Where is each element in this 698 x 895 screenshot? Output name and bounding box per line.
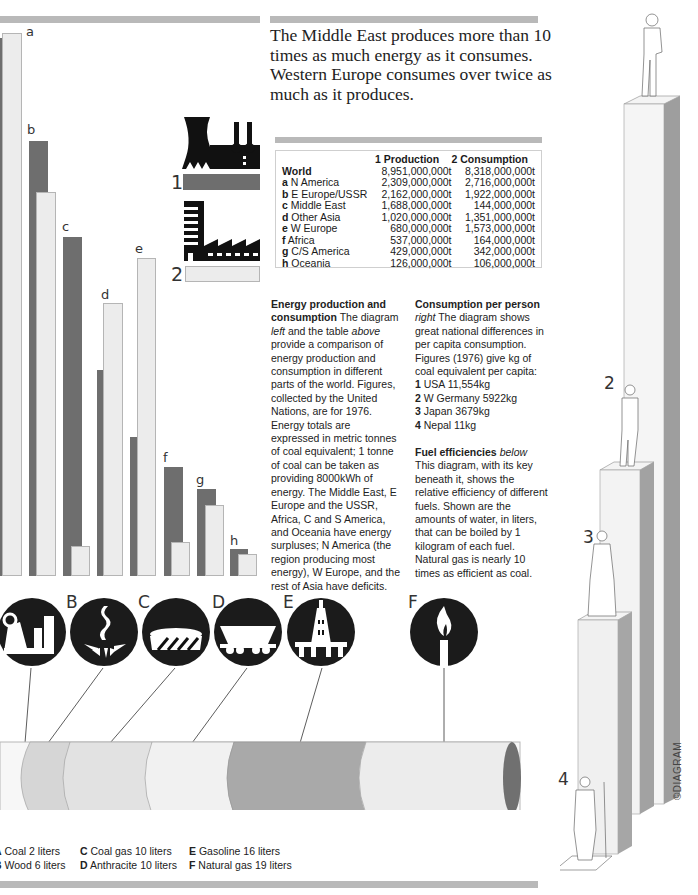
fuel-key-letter: E bbox=[189, 845, 196, 857]
production-text-part: and the table bbox=[285, 325, 352, 337]
legend-swatch-production bbox=[183, 174, 260, 190]
fuel-efficiency-pipe bbox=[0, 660, 530, 810]
table-row: h Oceania 126,000,000t 106,000,000t bbox=[282, 258, 535, 270]
region-key: a bbox=[282, 176, 288, 188]
consumption-value: 106,000,000t bbox=[452, 258, 535, 270]
fuel-key-letter: C bbox=[80, 845, 88, 857]
fuel-key-item: D Anthracite 10 liters bbox=[80, 859, 177, 873]
region-name: Oceania bbox=[291, 257, 330, 269]
consumption-value: 144,000,000t bbox=[452, 200, 535, 212]
fuel-body: This diagram, with its key beneath it, s… bbox=[415, 459, 548, 578]
region-key: d bbox=[282, 211, 288, 223]
fuel-key-name: Anthracite bbox=[90, 859, 137, 871]
gas-holder-icon bbox=[142, 598, 210, 666]
bar-label-b: b bbox=[27, 122, 35, 137]
fuel-key-liters: 19 liters bbox=[255, 859, 292, 871]
fuel-key-item: A Coal 2 liters bbox=[0, 845, 66, 859]
item-text: Japan 3679kg bbox=[421, 405, 490, 417]
per-person-heading: Consumption per person bbox=[415, 298, 540, 310]
top-rule-right bbox=[270, 16, 538, 23]
region-key: g bbox=[282, 245, 288, 257]
table-header-row: 1 Production 2 Consumption bbox=[282, 154, 535, 166]
production-value: 2,309,000,000t bbox=[375, 177, 452, 189]
bar-c-production bbox=[63, 237, 82, 576]
region-name: World bbox=[282, 165, 312, 177]
per-person-right: right bbox=[415, 311, 435, 323]
wood-fire-icon bbox=[70, 598, 138, 666]
table-rule bbox=[275, 137, 542, 143]
region-key: e bbox=[282, 222, 288, 234]
fuel-key-letter: A bbox=[0, 845, 2, 857]
bottom-rule bbox=[0, 881, 538, 888]
fuel-key-liters: 16 liters bbox=[243, 845, 280, 857]
region-name: Middle East bbox=[291, 199, 346, 211]
table-header-production: 1 Production bbox=[375, 154, 452, 166]
bar-label-f: f bbox=[163, 450, 168, 465]
fuel-key-item: F Natural gas 19 liters bbox=[189, 859, 292, 873]
region-name: E Europe/USSR bbox=[291, 188, 367, 200]
bar-c-consumption bbox=[71, 546, 90, 576]
table-header-consumption: 2 Consumption bbox=[452, 154, 535, 166]
region-name: Africa bbox=[288, 234, 315, 246]
bar-a-consumption bbox=[2, 33, 22, 576]
consumption-value: 1,573,000,000t bbox=[452, 223, 535, 235]
legend-number-consumption: 2 bbox=[171, 263, 183, 285]
fuel-key-name: Coal bbox=[5, 845, 27, 857]
table-row: e W Europe 680,000,000t 1,573,000,000t bbox=[282, 223, 535, 235]
fuel-key-liters: 10 liters bbox=[135, 845, 172, 857]
legend-number-production: 1 bbox=[171, 171, 183, 193]
fuel-key-item: C Coal gas 10 liters bbox=[80, 845, 177, 859]
fuel-key-col-1: A Coal 2 liters B Wood 6 liters bbox=[0, 845, 66, 872]
production-text-part: The diagram bbox=[337, 311, 399, 323]
copyright: ©DIAGRAM bbox=[672, 742, 683, 800]
power-station-icon bbox=[182, 117, 260, 169]
fuel-key-name: Natural gas bbox=[198, 859, 252, 871]
oil-rig-icon bbox=[287, 598, 355, 666]
fuel-key-item: E Gasoline 16 liters bbox=[189, 845, 292, 859]
headline: The Middle East produces more than 10 ti… bbox=[270, 26, 560, 104]
gas-flame-icon bbox=[410, 598, 478, 666]
fuel-key-name: Wood bbox=[5, 859, 32, 871]
region-key: c bbox=[282, 199, 288, 211]
coal-mine-icon bbox=[0, 598, 66, 666]
region-key: h bbox=[282, 257, 288, 269]
bar-label-a: a bbox=[26, 24, 34, 39]
bar-g-consumption bbox=[205, 505, 224, 576]
production-text-body: provide a comparison of energy productio… bbox=[271, 338, 400, 591]
production-text-above: above bbox=[352, 325, 381, 337]
bar-label-g: g bbox=[196, 472, 204, 487]
region-name: Other Asia bbox=[291, 211, 340, 223]
fuel-key-liters: 10 liters bbox=[140, 859, 177, 871]
pillar-number-4: 4 bbox=[558, 769, 569, 789]
fuel-key-liters: 2 liters bbox=[29, 845, 60, 857]
region-key: b bbox=[282, 188, 288, 200]
production-text-left: left bbox=[271, 325, 285, 337]
bar-f-consumption bbox=[171, 542, 190, 576]
region-name: C/S America bbox=[291, 245, 349, 257]
bar-label-c: c bbox=[62, 219, 69, 234]
fuel-key-letter: D bbox=[80, 859, 88, 871]
factory-icon bbox=[184, 201, 260, 261]
item-text: USA 11,554kg bbox=[421, 378, 490, 390]
fuel-key-col-2: C Coal gas 10 liters D Anthracite 10 lit… bbox=[80, 845, 177, 872]
consumption-value: 342,000,000t bbox=[452, 246, 535, 258]
fuel-text: Fuel efficiencies below This diagram, wi… bbox=[415, 446, 550, 580]
bar-label-h: h bbox=[230, 533, 238, 548]
production-value: 126,000,000t bbox=[375, 258, 452, 270]
bar-h-consumption bbox=[238, 554, 257, 576]
per-person-text: Consumption per person right The diagram… bbox=[415, 298, 550, 432]
energy-table: 1 Production 2 Consumption World 8,951,0… bbox=[275, 150, 542, 268]
bar-d-consumption bbox=[103, 303, 123, 576]
fuel-key-letter: F bbox=[189, 859, 195, 871]
production-value: 429,000,000t bbox=[375, 246, 452, 258]
item-text: W Germany 5922kg bbox=[421, 392, 517, 404]
fuel-key-liters: 6 liters bbox=[35, 859, 66, 871]
item-text: Nepal 11kg bbox=[421, 419, 476, 431]
fuel-heading: Fuel efficiencies bbox=[415, 446, 497, 458]
fuel-key-name: Gasoline bbox=[199, 845, 240, 857]
production-value: 1,688,000,000t bbox=[375, 200, 452, 212]
production-value: 680,000,000t bbox=[375, 223, 452, 235]
bar-b-consumption bbox=[36, 192, 56, 576]
fuel-below: below bbox=[500, 446, 527, 458]
fuel-key-name: Coal gas bbox=[91, 845, 132, 857]
